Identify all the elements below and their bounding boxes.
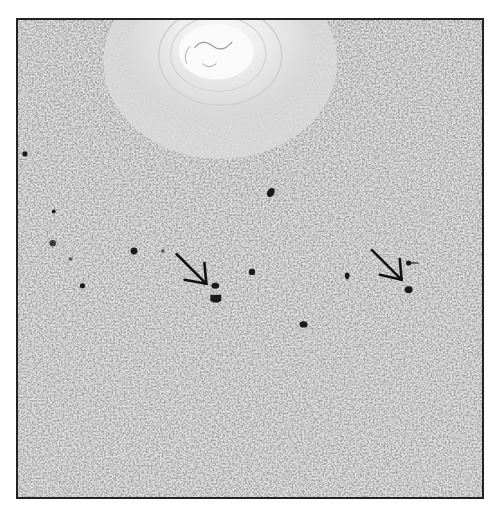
micrograph-image [18, 20, 482, 497]
micrograph-frame [16, 18, 484, 499]
